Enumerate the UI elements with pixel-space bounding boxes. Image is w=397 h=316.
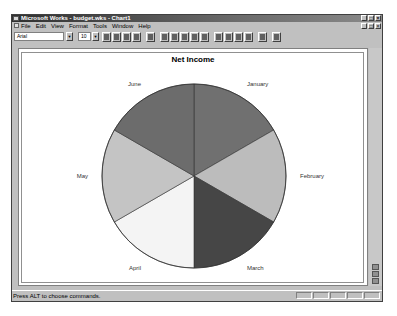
menu-format[interactable]: Format — [69, 22, 88, 30]
status-cell — [313, 292, 329, 299]
pie-chart-icon — [182, 34, 187, 40]
pie-label-june: June — [128, 81, 142, 87]
pie-label-january: January — [247, 81, 268, 87]
status-text: Press ALT to choose commands. — [13, 293, 101, 299]
close-button[interactable]: × — [375, 15, 381, 21]
status-cell — [330, 292, 346, 299]
copy-icon — [148, 34, 153, 40]
pie-chart-button[interactable] — [180, 32, 189, 42]
vertical-scrollbar[interactable] — [369, 48, 382, 286]
3d-pie-icon — [216, 34, 221, 40]
font-name-dropdown-button[interactable]: ▼ — [66, 32, 73, 41]
pie-label-may: May — [77, 173, 88, 179]
minimize-button[interactable]: _ — [361, 15, 367, 21]
line-chart-icon — [172, 34, 177, 40]
pie-label-april: April — [129, 265, 141, 271]
status-cell — [347, 292, 363, 299]
menu-help[interactable]: Help — [138, 22, 150, 30]
pie-label-march: March — [247, 265, 264, 271]
menu-bar: File Edit View Format Tools Window Help — [12, 22, 382, 30]
chart-title: Net Income — [171, 55, 215, 64]
go-to-spreadsheet-icon — [260, 34, 265, 40]
new-icon — [104, 34, 109, 40]
maximize-button[interactable]: □ — [368, 15, 374, 21]
menu-file[interactable]: File — [21, 22, 31, 30]
chart-pane[interactable]: Net Income JanuaryFebruaryMarchAprilMayJ… — [18, 48, 368, 286]
new-button[interactable] — [102, 32, 111, 42]
print-icon — [124, 34, 129, 40]
combination-chart-button[interactable] — [244, 32, 253, 42]
font-name-select[interactable]: Arial — [14, 32, 64, 41]
doc-restore-button[interactable]: □ — [368, 23, 374, 29]
copy-button[interactable] — [146, 32, 155, 42]
window-title: Microsoft Works - budget.wks - Chart1 — [21, 15, 131, 21]
status-bar: Press ALT to choose commands. — [12, 290, 382, 301]
stacked-line-icon — [192, 34, 197, 40]
help-icon — [274, 34, 279, 40]
xy-chart-button[interactable] — [234, 32, 243, 42]
stacked-line-button[interactable] — [190, 32, 199, 42]
font-size-dropdown-button[interactable]: ▼ — [92, 32, 99, 41]
bar-chart-icon — [162, 34, 167, 40]
3d-area-button[interactable] — [224, 32, 233, 42]
bar-chart-button[interactable] — [160, 32, 169, 42]
menu-window[interactable]: Window — [112, 22, 133, 30]
font-size-select[interactable]: 10 — [78, 32, 91, 41]
3d-bar-icon — [202, 34, 207, 40]
pie-label-february: February — [300, 173, 324, 179]
go-to-spreadsheet-button[interactable] — [258, 32, 267, 42]
combination-chart-icon — [246, 34, 251, 40]
pie-chart: Net Income JanuaryFebruaryMarchAprilMayJ… — [19, 49, 367, 285]
menu-tools[interactable]: Tools — [93, 22, 107, 30]
doc-close-button[interactable]: × — [375, 23, 381, 29]
works-app-icon — [13, 16, 19, 21]
save-button[interactable] — [112, 32, 121, 42]
zoom-in-icon[interactable] — [372, 264, 379, 270]
print-preview-button[interactable] — [132, 32, 141, 42]
3d-pie-button[interactable] — [214, 32, 223, 42]
status-cell — [364, 292, 380, 299]
zoom-out-icon[interactable] — [372, 271, 379, 277]
3d-bar-button[interactable] — [200, 32, 209, 42]
xy-chart-icon — [236, 34, 241, 40]
app-window: Microsoft Works - budget.wks - Chart1 _ … — [11, 14, 383, 302]
menu-view[interactable]: View — [51, 22, 64, 30]
document-icon[interactable] — [14, 23, 19, 28]
menu-edit[interactable]: Edit — [36, 22, 46, 30]
status-cell — [296, 292, 312, 299]
print-preview-icon — [134, 34, 139, 40]
line-chart-button[interactable] — [170, 32, 179, 42]
doc-minimize-button[interactable]: _ — [361, 23, 367, 29]
help-button[interactable] — [272, 32, 281, 42]
chart-nav-icon[interactable] — [372, 278, 379, 284]
save-icon — [114, 34, 119, 40]
3d-area-icon — [226, 34, 231, 40]
print-button[interactable] — [122, 32, 131, 42]
toolbar: Arial ▼ 10 ▼ — [12, 30, 382, 44]
title-bar: Microsoft Works - budget.wks - Chart1 _ … — [12, 15, 382, 22]
